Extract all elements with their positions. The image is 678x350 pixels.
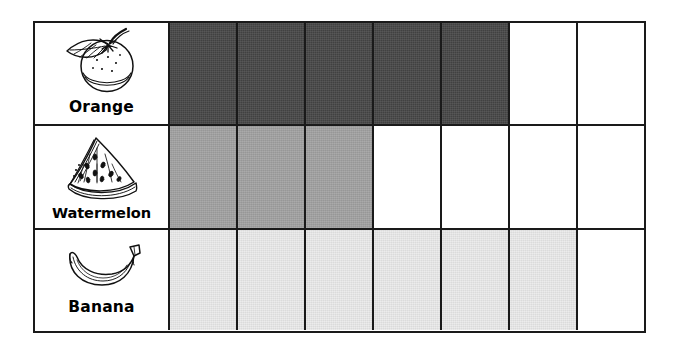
chart-cell[interactable] — [170, 230, 238, 330]
row-label-cell-banana: Banana — [35, 230, 170, 330]
table-row: Banana — [35, 228, 644, 330]
chart-cell[interactable] — [374, 230, 442, 330]
chart-cell[interactable] — [510, 230, 578, 330]
chart-cell[interactable] — [238, 126, 306, 228]
chart-cell[interactable] — [170, 23, 238, 124]
table-row: Watermelon — [35, 124, 644, 228]
fruit-bar-chart-grid: Orange — [33, 21, 646, 333]
row-label-cell-watermelon: Watermelon — [35, 126, 170, 228]
banana-icon — [35, 230, 168, 300]
chart-cell[interactable] — [442, 126, 510, 228]
chart-cell[interactable] — [170, 126, 238, 228]
orange-fruit-icon — [35, 23, 168, 100]
chart-cell[interactable] — [306, 230, 374, 330]
chart-cell[interactable] — [578, 23, 644, 124]
chart-cell[interactable] — [306, 23, 374, 124]
row-cells-banana — [170, 230, 644, 330]
table-row: Orange — [35, 23, 644, 124]
pictograph-canvas: Orange — [0, 0, 678, 350]
chart-cell[interactable] — [578, 126, 644, 228]
chart-cell[interactable] — [510, 126, 578, 228]
chart-cell[interactable] — [374, 126, 442, 228]
row-cells-watermelon — [170, 126, 644, 228]
chart-cell[interactable] — [510, 23, 578, 124]
chart-cell[interactable] — [238, 230, 306, 330]
row-cells-orange — [170, 23, 644, 124]
row-label-text: Banana — [68, 300, 134, 331]
chart-cell[interactable] — [442, 230, 510, 330]
chart-cell[interactable] — [442, 23, 510, 124]
row-label-text: Watermelon — [52, 206, 151, 228]
chart-cell[interactable] — [374, 23, 442, 124]
row-label-text: Orange — [69, 100, 134, 125]
chart-cell[interactable] — [238, 23, 306, 124]
chart-cell[interactable] — [306, 126, 374, 228]
row-label-cell-orange: Orange — [35, 23, 170, 124]
watermelon-slice-icon — [35, 126, 168, 206]
chart-cell[interactable] — [578, 230, 644, 330]
